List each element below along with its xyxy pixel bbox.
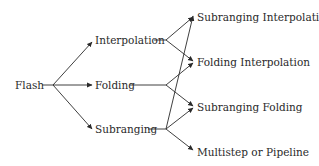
edge-flash-interpolation (53, 42, 92, 85)
node-folding: Folding (95, 79, 135, 91)
edge-subranging-multistep (166, 129, 193, 150)
edge-interpolation-folding-interpolation (166, 40, 193, 61)
node-flash: Flash (15, 79, 44, 91)
edge-flash-subranging (53, 85, 92, 129)
node-folding-interpolation: Folding Interpolation (197, 56, 310, 68)
node-subranging-folding: Subranging Folding (197, 101, 303, 113)
connector-lines (0, 0, 319, 166)
node-subranging-interpolation: Subranging Interpolation (197, 11, 319, 23)
node-multistep-or-pipeline: Multistep or Pipeline (197, 146, 309, 158)
adc-architecture-diagram: Flash Interpolation Folding Subranging S… (0, 0, 319, 166)
node-interpolation: Interpolation (95, 34, 165, 46)
node-subranging: Subranging (95, 123, 157, 135)
edge-interpolation-subranging-interpolation (166, 17, 193, 40)
edge-folding-subranging-folding (166, 85, 193, 106)
edge-subranging-subranging-interpolation (166, 16, 193, 129)
